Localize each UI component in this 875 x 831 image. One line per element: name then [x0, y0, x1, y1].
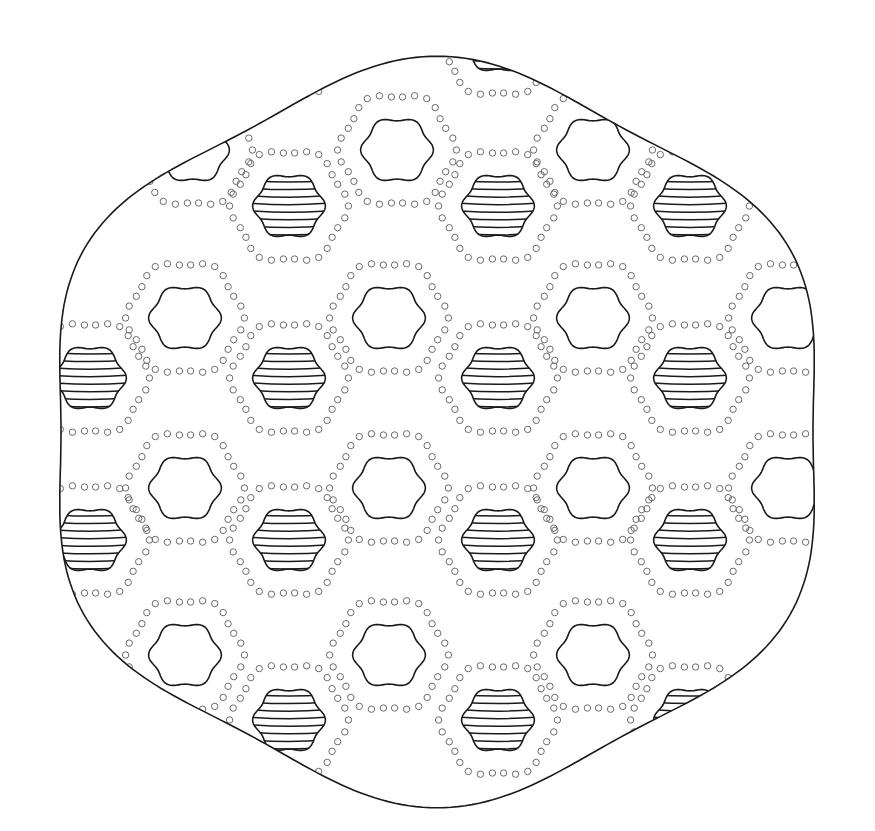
plain-blob [149, 288, 222, 349]
dotted-ring [435, 663, 560, 778]
dotted-ring [530, 598, 655, 713]
dotted-ring [530, 93, 655, 208]
dotted-ring [326, 431, 451, 546]
plain-blob [361, 120, 434, 181]
dotted-ring [130, 93, 255, 208]
dotted-ring [326, 598, 451, 713]
striped-blob [640, 510, 740, 571]
dotted-ring [627, 483, 752, 598]
dotted-ring [725, 431, 850, 546]
striped-blob [448, 348, 548, 409]
dotted-ring [627, 149, 752, 264]
dotted-ring [122, 431, 247, 546]
pattern-tiles [27, 0, 850, 777]
striped-blob [448, 690, 548, 751]
wavy-outline [60, 56, 814, 807]
striped-blob [239, 176, 339, 237]
plain-blob [557, 120, 630, 181]
hex-blob-pattern [0, 0, 875, 831]
striped-blob [640, 348, 740, 409]
dotted-ring [326, 261, 451, 376]
dotted-ring [122, 598, 247, 713]
plain-blob [557, 288, 630, 349]
dotted-ring [27, 483, 152, 598]
dotted-ring [226, 663, 351, 778]
striped-blob [239, 348, 339, 409]
dotted-ring [627, 663, 752, 778]
plain-blob [353, 625, 426, 686]
dotted-ring [334, 93, 459, 208]
striped-blob [40, 510, 140, 571]
plain-blob [353, 288, 426, 349]
striped-blob [640, 176, 740, 237]
dotted-ring [226, 321, 351, 436]
pattern-canvas [0, 0, 875, 831]
plain-blob [149, 625, 222, 686]
plain-blob [353, 458, 426, 519]
striped-blob [448, 10, 548, 71]
dotted-ring [530, 431, 655, 546]
dotted-ring [435, 483, 560, 598]
striped-blob [239, 690, 339, 751]
plain-blob [149, 458, 222, 519]
plain-blob [557, 625, 630, 686]
dotted-ring [226, 483, 351, 598]
striped-blob [448, 176, 548, 237]
dotted-ring [226, 149, 351, 264]
striped-blob [40, 348, 140, 409]
striped-blob [239, 510, 339, 571]
striped-blob [239, 10, 339, 71]
dotted-ring [435, 149, 560, 264]
plain-blob [557, 458, 630, 519]
striped-blob [448, 510, 548, 571]
dotted-ring [627, 321, 752, 436]
dotted-ring [725, 261, 850, 376]
